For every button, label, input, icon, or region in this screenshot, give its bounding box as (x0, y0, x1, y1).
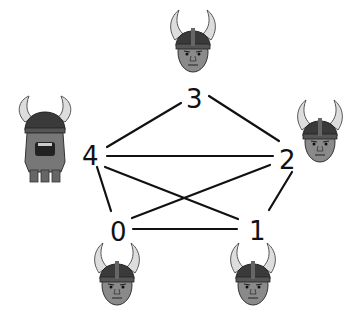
edges (97, 96, 292, 229)
node-label-0: 0 (110, 217, 127, 247)
viking-full-body-icon-4 (19, 96, 71, 182)
viking-head-icon-2 (298, 100, 343, 162)
viking-head-frowning-icon-1 (231, 243, 276, 305)
node-label-2: 2 (279, 145, 296, 175)
edge-0-2 (132, 165, 270, 218)
edge-2-1 (269, 172, 292, 210)
edge-4-1 (105, 167, 238, 219)
node-label-4: 4 (82, 141, 99, 171)
viking-head-icon-0 (95, 243, 140, 305)
viking-head-icon-3 (171, 10, 216, 72)
node-labels: 0 1 2 3 4 (82, 84, 296, 247)
edge-3-2 (209, 96, 279, 141)
node-label-1: 1 (249, 216, 266, 246)
edge-3-4 (107, 103, 181, 147)
graph-diagram: 0 1 2 3 4 (0, 0, 353, 319)
node-label-3: 3 (186, 84, 203, 114)
edge-4-0 (97, 167, 111, 211)
